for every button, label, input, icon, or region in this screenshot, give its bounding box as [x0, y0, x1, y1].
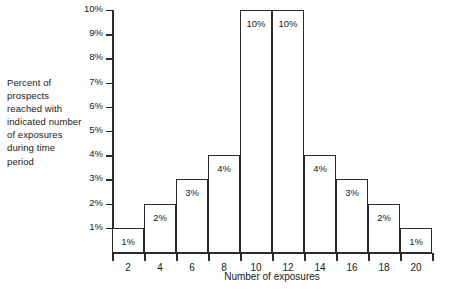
bar-value-label: 10% [272, 18, 304, 29]
y-axis-tick [106, 204, 113, 205]
x-axis-tick [304, 253, 306, 261]
x-axis-tick [240, 253, 242, 261]
bar-value-label: 10% [240, 18, 272, 29]
x-axis-tick [176, 253, 178, 261]
chart-page: Percent ofprospectsreached withindicated… [0, 0, 449, 290]
bar [272, 10, 304, 252]
bar [240, 10, 272, 252]
x-axis-tick [400, 253, 402, 261]
x-axis-tick [208, 253, 210, 261]
y-axis-tick-label: 2% [89, 197, 103, 208]
y-axis-tick [106, 131, 113, 132]
y-axis-tick-label: 10% [84, 3, 103, 14]
y-axis-tick [106, 179, 113, 180]
y-axis-tick-label: 5% [89, 124, 103, 135]
y-axis-tick-label: 3% [89, 172, 103, 183]
y-axis-tick [106, 83, 113, 84]
bar-value-label: 2% [368, 212, 400, 223]
bar-value-label: 4% [304, 163, 336, 174]
y-axis-tick [106, 58, 113, 59]
x-axis-tick [272, 253, 274, 261]
bar-value-label: 1% [112, 236, 144, 247]
y-axis-tick [106, 155, 113, 156]
y-axis-tick-label: 8% [89, 51, 103, 62]
x-axis-tick [368, 253, 370, 261]
plot-area: 10%9%8%7%6%5%4%3%2%1% 1%2%3%4%10%10%4%3%… [112, 10, 432, 252]
x-axis-tick [336, 253, 338, 261]
y-axis-tick [106, 107, 113, 108]
bar-value-label: 3% [176, 187, 208, 198]
bar-value-label: 3% [336, 187, 368, 198]
bar-value-label: 1% [400, 236, 432, 247]
bar-value-label: 2% [144, 212, 176, 223]
y-axis-tick [106, 10, 113, 11]
x-axis-tick [432, 253, 434, 261]
y-axis-tick-label: 9% [89, 27, 103, 38]
y-axis-tick-label: 6% [89, 100, 103, 111]
y-axis-tick-label: 4% [89, 148, 103, 159]
y-axis-tick-label: 1% [89, 221, 103, 232]
bar-value-label: 4% [208, 163, 240, 174]
x-axis-tick [144, 253, 146, 261]
x-axis-tick [112, 253, 114, 261]
y-axis-tick-label: 7% [89, 76, 103, 87]
x-axis-title: Number of exposures [112, 271, 432, 282]
y-axis-tick [106, 34, 113, 35]
